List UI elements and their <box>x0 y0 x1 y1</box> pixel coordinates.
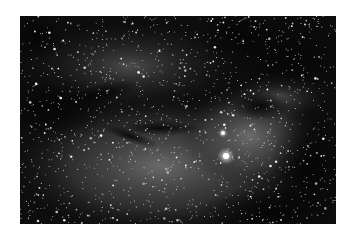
nebula-photograph <box>20 16 336 224</box>
starfield-image <box>20 16 336 224</box>
